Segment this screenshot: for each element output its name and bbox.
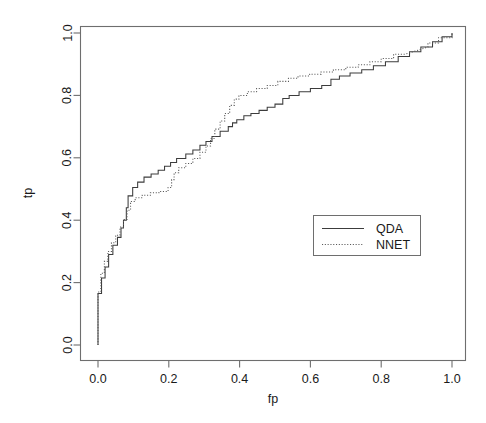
roc-curve-nnet [98, 33, 452, 345]
x-tick-label: 0.0 [89, 372, 106, 386]
y-tick-label: 0.0 [61, 336, 75, 353]
y-tick-label: 0.8 [61, 87, 75, 104]
roc-chart-container: 0.00.20.40.60.81.0 0.00.20.40.60.81.0 fp… [0, 0, 486, 423]
y-tick-label: 0.6 [61, 149, 75, 166]
x-axis-title: fp [268, 392, 278, 406]
x-tick-label: 0.8 [373, 372, 390, 386]
series-layer [98, 33, 452, 345]
y-tick-label: 0.2 [61, 274, 75, 291]
legend-label-nnet: NNET [376, 238, 410, 252]
roc-plot-svg: 0.00.20.40.60.81.0 0.00.20.40.60.81.0 fp… [0, 0, 486, 423]
y-axis-tick-labels: 0.00.20.40.60.81.0 [61, 24, 75, 353]
x-axis-tick-labels: 0.00.20.40.60.81.0 [89, 372, 460, 386]
x-tick-label: 0.2 [160, 372, 177, 386]
legend-label-qda: QDA [376, 222, 404, 236]
chart-legend: QDA NNET [314, 216, 421, 256]
x-axis-ticks [98, 361, 452, 368]
y-tick-label: 0.4 [61, 211, 75, 228]
x-tick-label: 0.6 [302, 372, 319, 386]
y-axis-title: tp [21, 188, 35, 198]
y-tick-label: 1.0 [61, 24, 75, 41]
plot-frame [81, 27, 466, 361]
x-tick-label: 0.4 [231, 372, 248, 386]
roc-curve-qda [98, 33, 452, 345]
y-axis-ticks [74, 33, 81, 345]
x-tick-label: 1.0 [443, 372, 460, 386]
